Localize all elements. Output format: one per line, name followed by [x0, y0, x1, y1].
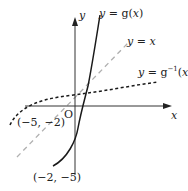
g-inverse-curve-label: y = g−1(x) — [137, 65, 188, 79]
inverse-function-diagram: y x O y = g(x) y = x y = g−1(x) (−5, −2)… — [0, 0, 188, 191]
y-axis-arrow-icon — [72, 17, 78, 26]
point-label-minus5-minus2: (−5, −2) — [17, 116, 65, 129]
g-curve-label: y = g(x) — [98, 7, 143, 20]
g-curve — [53, 15, 100, 166]
identity-line-label: y = x — [126, 35, 156, 48]
x-axis-label: x — [171, 109, 178, 122]
identity-line — [17, 43, 128, 157]
y-axis-label: y — [78, 9, 86, 22]
origin-label: O — [64, 108, 73, 121]
point-label-minus2-minus5: (−2, −5) — [33, 171, 81, 184]
